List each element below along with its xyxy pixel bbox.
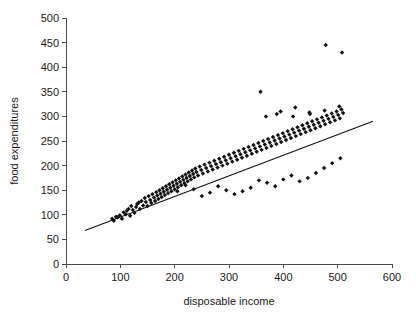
- x-tick-label: 400: [274, 271, 292, 283]
- data-point: [257, 178, 261, 182]
- x-tick-label: 300: [220, 271, 238, 283]
- data-point: [324, 43, 328, 47]
- x-tick-label: 200: [165, 271, 183, 283]
- data-point: [291, 114, 295, 118]
- data-point: [216, 184, 220, 188]
- data-point: [293, 105, 297, 109]
- data-point: [208, 190, 212, 194]
- data-point: [141, 203, 145, 207]
- y-tick-label: 100: [41, 209, 59, 221]
- data-point: [143, 196, 147, 200]
- y-tick-label: 400: [41, 61, 59, 73]
- x-tick-label: 100: [111, 271, 129, 283]
- plot-area: 050100150200250300350400450500 010020030…: [0, 0, 416, 320]
- data-point: [273, 184, 277, 188]
- data-point: [322, 108, 326, 112]
- y-tick-label: 250: [41, 135, 59, 147]
- data-point: [281, 177, 285, 181]
- scatter-chart: 050100150200250300350400450500 010020030…: [0, 0, 416, 320]
- data-point: [314, 171, 318, 175]
- data-point: [306, 176, 310, 180]
- data-point: [330, 161, 334, 165]
- data-point: [289, 173, 293, 177]
- data-points: [110, 43, 345, 223]
- data-point: [338, 156, 342, 160]
- x-axis-title: disposable income: [183, 295, 274, 307]
- x-axis-ticks: 0100200300400500600: [63, 264, 401, 283]
- regression-line: [85, 121, 373, 230]
- data-point: [340, 50, 344, 54]
- data-point: [264, 114, 268, 118]
- y-tick-label: 50: [47, 233, 59, 245]
- y-tick-label: 350: [41, 86, 59, 98]
- data-point: [232, 192, 236, 196]
- y-tick-label: 200: [41, 160, 59, 172]
- y-tick-label: 450: [41, 37, 59, 49]
- data-point: [129, 204, 133, 208]
- y-axis-title: food expenditures: [8, 97, 20, 185]
- data-point: [240, 189, 244, 193]
- y-tick-label: 500: [41, 12, 59, 24]
- data-point: [322, 166, 326, 170]
- data-point: [144, 200, 148, 204]
- data-point: [224, 188, 228, 192]
- data-point: [146, 194, 150, 198]
- x-tick-label: 0: [63, 271, 69, 283]
- data-point: [191, 187, 195, 191]
- x-tick-label: 600: [383, 271, 401, 283]
- y-tick-label: 150: [41, 184, 59, 196]
- y-tick-label: 300: [41, 110, 59, 122]
- data-point: [258, 90, 262, 94]
- data-point: [200, 194, 204, 198]
- data-point: [278, 109, 282, 113]
- x-tick-label: 500: [328, 271, 346, 283]
- data-point: [249, 186, 253, 190]
- data-point: [265, 181, 269, 185]
- y-tick-label: 0: [53, 258, 59, 270]
- data-point: [275, 112, 279, 116]
- y-axis-ticks: 050100150200250300350400450500: [41, 12, 66, 270]
- data-point: [297, 179, 301, 183]
